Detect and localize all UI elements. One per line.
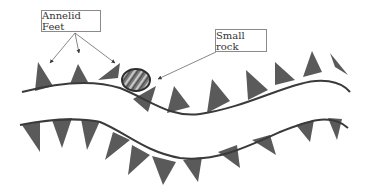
annelid-feet-label: Annelid Feet [41, 10, 101, 32]
rock-arrow [158, 52, 216, 79]
small-rock-label: Small rock [215, 29, 267, 52]
annelid-diagram: Annelid Feet Small rock [0, 0, 368, 194]
body-upper-edge [22, 81, 350, 115]
small-rock [122, 69, 150, 91]
lower-feet [22, 118, 342, 185]
feet-arrows [50, 33, 115, 63]
